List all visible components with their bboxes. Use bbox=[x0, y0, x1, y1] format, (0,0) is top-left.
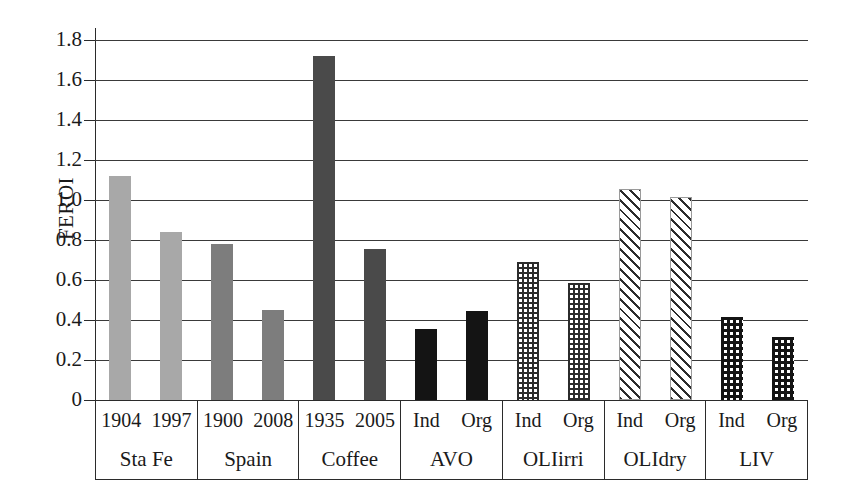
gridline bbox=[95, 120, 808, 121]
x-axis-group-table: 19041997Sta Fe19002008Spain19352005Coffe… bbox=[95, 400, 808, 480]
bar-avo-org bbox=[466, 311, 488, 400]
gridline bbox=[95, 200, 808, 201]
y-tick-label: 1.4 bbox=[28, 109, 82, 130]
bar-spain-2008 bbox=[262, 310, 284, 400]
y-tick-mark bbox=[84, 200, 95, 201]
x-sub-label: 2005 bbox=[350, 410, 400, 430]
x-group-sublabels: 19352005 bbox=[299, 400, 400, 440]
y-tick-mark bbox=[84, 120, 95, 121]
bar-sta fe-1997 bbox=[160, 232, 182, 400]
y-tick-mark bbox=[84, 160, 95, 161]
x-group-sublabels: IndOrg bbox=[706, 400, 807, 440]
x-group-name: OLIdry bbox=[605, 440, 706, 479]
y-tick-label: 0.4 bbox=[28, 309, 82, 330]
x-group-oliirri: IndOrgOLIirri bbox=[503, 400, 605, 479]
gridline bbox=[95, 240, 808, 241]
gridline bbox=[95, 160, 808, 161]
bar-coffee-1935 bbox=[313, 56, 335, 400]
gridline bbox=[95, 40, 808, 41]
x-sub-label: Ind bbox=[503, 410, 553, 430]
bar-oliirri-org bbox=[568, 283, 590, 400]
y-tick-label: 1.6 bbox=[28, 69, 82, 90]
x-group-name: Coffee bbox=[299, 440, 400, 479]
x-group-liv: IndOrgLIV bbox=[706, 400, 807, 479]
x-sub-label: Ind bbox=[706, 410, 756, 430]
x-group-name: Sta Fe bbox=[96, 440, 197, 479]
x-sub-label: Org bbox=[757, 410, 807, 430]
x-sub-label: 1997 bbox=[146, 410, 196, 430]
x-sub-label: 1904 bbox=[96, 410, 146, 430]
bar-liv-ind bbox=[721, 317, 743, 400]
x-group-name: Spain bbox=[198, 440, 299, 479]
bar-spain-1900 bbox=[211, 244, 233, 400]
y-tick-label: 0 bbox=[28, 389, 82, 410]
x-group-sta fe: 19041997Sta Fe bbox=[96, 400, 198, 479]
x-sub-label: Org bbox=[452, 410, 502, 430]
y-tick-mark bbox=[84, 360, 95, 361]
x-group-name: AVO bbox=[401, 440, 502, 479]
x-group-olidry: IndOrgOLIdry bbox=[605, 400, 707, 479]
x-group-sublabels: IndOrg bbox=[605, 400, 706, 440]
y-tick-label: 1.2 bbox=[28, 149, 82, 170]
bar-olidry-org bbox=[670, 197, 692, 400]
x-group-avo: IndOrgAVO bbox=[401, 400, 503, 479]
y-tick-label: 0.2 bbox=[28, 349, 82, 370]
x-group-spain: 19002008Spain bbox=[198, 400, 300, 479]
y-tick-mark bbox=[84, 40, 95, 41]
y-tick-mark bbox=[84, 80, 95, 81]
x-group-sublabels: IndOrg bbox=[401, 400, 502, 440]
y-tick-label: 0.6 bbox=[28, 269, 82, 290]
x-sub-label: 1935 bbox=[299, 410, 349, 430]
x-group-name: OLIirri bbox=[503, 440, 604, 479]
x-group-sublabels: 19002008 bbox=[198, 400, 299, 440]
y-axis-line bbox=[95, 28, 96, 400]
x-group-sublabels: 19041997 bbox=[96, 400, 197, 440]
x-group-sublabels: IndOrg bbox=[503, 400, 604, 440]
bar-chart-figure: FEROI 00.20.40.60.81.01.21.41.61.8 19041… bbox=[0, 0, 846, 493]
bar-coffee-2005 bbox=[364, 249, 386, 400]
x-sub-label: Ind bbox=[605, 410, 655, 430]
bar-sta fe-1904 bbox=[109, 176, 131, 400]
bar-avo-ind bbox=[415, 329, 437, 400]
x-sub-label: Org bbox=[655, 410, 705, 430]
gridline bbox=[95, 280, 808, 281]
gridline bbox=[95, 360, 808, 361]
gridline bbox=[95, 80, 808, 81]
x-group-coffee: 19352005Coffee bbox=[299, 400, 401, 479]
y-axis-tick-labels: 00.20.40.60.81.01.21.41.61.8 bbox=[20, 0, 82, 493]
y-tick-mark bbox=[84, 320, 95, 321]
bar-liv-org bbox=[772, 337, 794, 400]
x-sub-label: Org bbox=[553, 410, 603, 430]
bar-oliirri-ind bbox=[517, 262, 539, 400]
x-group-name: LIV bbox=[706, 440, 807, 479]
y-tick-mark bbox=[84, 400, 95, 401]
y-tick-label: 0.8 bbox=[28, 229, 82, 250]
y-tick-mark bbox=[84, 240, 95, 241]
gridline bbox=[95, 320, 808, 321]
bar-olidry-ind bbox=[619, 189, 641, 400]
y-tick-mark bbox=[84, 280, 95, 281]
x-sub-label: 2008 bbox=[248, 410, 298, 430]
x-sub-label: 1900 bbox=[198, 410, 248, 430]
y-tick-label: 1.0 bbox=[28, 189, 82, 210]
x-sub-label: Ind bbox=[401, 410, 451, 430]
y-tick-label: 1.8 bbox=[28, 29, 82, 50]
